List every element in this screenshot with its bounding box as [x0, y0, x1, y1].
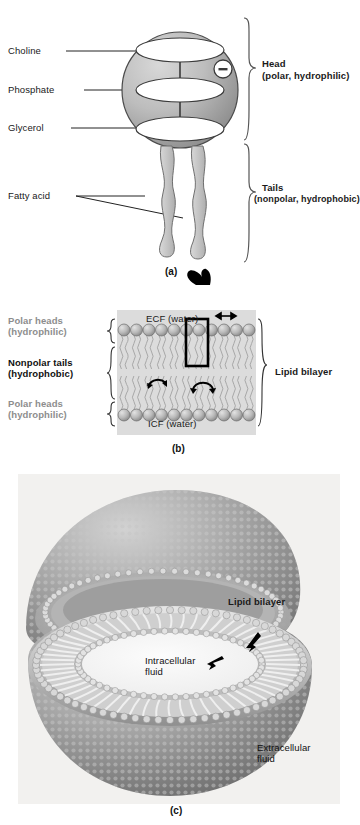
membrane-head-bead: [233, 614, 240, 621]
membrane-head-bead: [57, 630, 64, 637]
membrane-head-bead: [90, 643, 96, 649]
membrane-head-bead: [172, 568, 178, 574]
membrane-head-bead: [212, 610, 219, 617]
membrane-head-bead: [226, 575, 232, 581]
membrane-head-bead: [57, 693, 64, 700]
panel-b-right-bracket: [258, 319, 267, 426]
membrane-head-bead: [85, 577, 91, 583]
label-intracellular-fluid-line1: Intracellular: [145, 655, 195, 667]
membrane-head-bead: [251, 583, 257, 589]
membrane-head-bead: [151, 628, 157, 634]
membrane-head-bead: [80, 704, 87, 711]
panel-b-lipid-bilayer: Polar heads (hydrophilic) Nonpolar tails…: [0, 285, 359, 460]
membrane-head-bead: [162, 694, 168, 700]
membrane-head-bead: [131, 631, 137, 637]
phospholipid-head-bead: [243, 409, 255, 421]
phospholipid-head-bead: [131, 409, 143, 421]
membrane-head-bead: [244, 679, 250, 685]
membrane-head-bead: [222, 634, 228, 640]
membrane-tail-strand: [266, 664, 300, 665]
membrane-head-bead: [203, 631, 209, 637]
panel-b-left-brackets: [107, 319, 115, 426]
panel-c-membrane-sphere: Lipid bilayer Intracellular fluid Extrac…: [0, 460, 359, 825]
label-polar-heads-bottom-line2: (hydrophilic): [8, 409, 67, 421]
membrane-head-bead: [64, 697, 71, 704]
membrane-head-bead: [269, 626, 276, 633]
phospholipid-head-bead: [193, 324, 205, 336]
phospholipid-head-bead: [156, 324, 168, 336]
membrane-head-bead: [243, 580, 249, 586]
membrane-head-bead: [223, 612, 230, 619]
phosphate-ellipse: [136, 78, 224, 102]
membrane-head-bead: [193, 693, 199, 699]
membrane-tail-strand: [41, 660, 75, 661]
membrane-head-bead: [201, 715, 208, 722]
membrane-head-bead: [121, 610, 128, 617]
membrane-head-bead: [203, 691, 209, 697]
membrane-head-bead: [143, 716, 150, 723]
membrane-head-bead: [72, 700, 79, 707]
membrane-head-bead: [253, 619, 260, 626]
label-polar-heads-top-line1: Polar heads: [8, 315, 63, 327]
membrane-head-bead: [96, 640, 102, 646]
panel-c-graphic: [0, 460, 359, 825]
membrane-head-bead: [148, 568, 154, 574]
membrane-head-bead: [96, 682, 102, 688]
membrane-head-bead: [104, 637, 110, 643]
phospholipid-head: [122, 32, 238, 148]
membrane-head-bead: [155, 607, 162, 614]
membrane-head-bead: [237, 640, 243, 646]
membrane-head-bead: [253, 704, 260, 711]
phospholipid-head-bead: [118, 409, 130, 421]
membrane-head-bead: [126, 570, 132, 576]
label-glycerol: Glycerol: [8, 122, 44, 134]
membrane-head-bead: [69, 583, 75, 589]
label-polar-heads-top-line2: (hydrophilic): [8, 326, 67, 338]
membrane-head-bead: [56, 590, 62, 596]
membrane-head-bead: [141, 629, 147, 635]
membrane-head-bead: [137, 569, 143, 575]
label-head-line2: (polar, hydrophilic): [262, 70, 350, 82]
membrane-head-bead: [121, 713, 128, 720]
caption-panel-b: (b): [172, 443, 185, 454]
membrane-head-bead: [205, 571, 211, 577]
membrane-head-bead: [183, 693, 189, 699]
label-nonpolar-tails-line2: (hydrophobic): [8, 368, 73, 380]
membrane-head-bead: [162, 628, 168, 634]
membrane-head-bead: [115, 571, 121, 577]
membrane-head-bead: [166, 716, 173, 723]
panel-a-phospholipid-molecule: Choline Phosphate Glycerol Fatty acid He…: [0, 0, 359, 285]
choline-ellipse: [136, 38, 224, 62]
membrane-head-bead: [131, 691, 137, 697]
membrane-head-bead: [104, 685, 110, 691]
label-ecf-water: ECF (water): [146, 313, 198, 325]
label-head-line1: Head: [262, 58, 286, 70]
caption-panel-a: (a): [165, 266, 177, 277]
membrane-head-bead: [143, 607, 150, 614]
membrane-head-bead: [110, 612, 117, 619]
label-nonpolar-tails-line1: Nonpolar tails: [8, 357, 73, 369]
membrane-head-bead: [190, 716, 197, 723]
phospholipid-head-bead: [143, 324, 155, 336]
membrane-head-bead: [276, 630, 283, 637]
membrane-head-bead: [216, 573, 222, 579]
membrane-head-bead: [178, 716, 185, 723]
membrane-head-bead: [64, 626, 71, 633]
membrane-head-bead: [90, 707, 97, 714]
glycerol-ellipse: [136, 117, 224, 141]
head-bracket: [244, 18, 256, 140]
membrane-head-bead: [213, 690, 219, 696]
phospholipid-head-bead: [231, 409, 243, 421]
membrane-head-bead: [112, 634, 118, 640]
membrane-head-bead: [183, 628, 189, 634]
membrane-head-bead: [233, 709, 240, 716]
membrane-head-bead: [132, 715, 139, 722]
membrane-head-bead: [121, 632, 127, 638]
caption-panel-c: (c): [170, 805, 182, 816]
phospholipid-head-bead: [168, 324, 180, 336]
membrane-head-bead: [72, 623, 79, 630]
label-extracellular-fluid-line1: Extracellular: [257, 742, 311, 754]
membrane-head-bead: [50, 634, 57, 641]
membrane-head-bead: [201, 608, 208, 615]
membrane-head-bead: [258, 586, 264, 592]
